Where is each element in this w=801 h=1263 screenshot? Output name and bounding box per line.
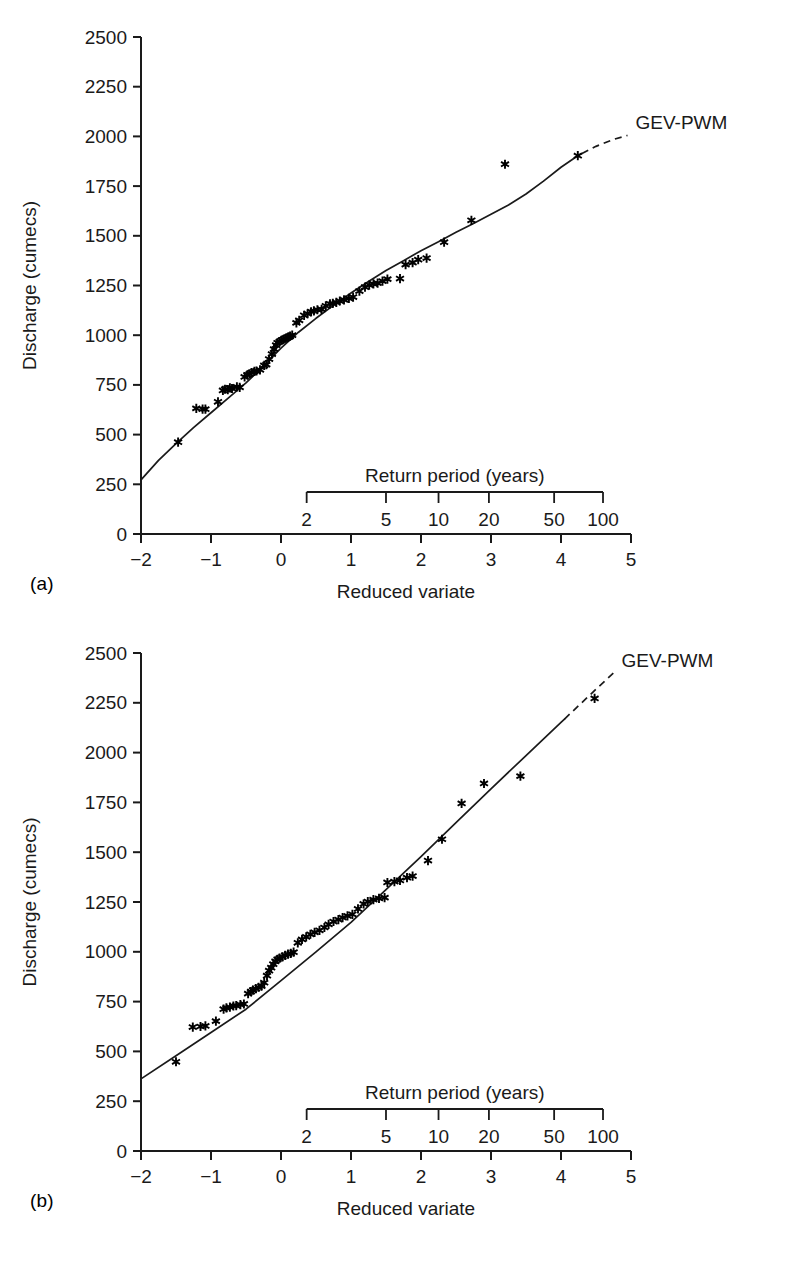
return-period-tick-label: 50 [544,509,565,530]
y-tick-label: 500 [95,1041,127,1062]
y-tick-label: 1000 [85,325,127,346]
data-point-marker [501,160,509,169]
fit-curve-solid [141,154,582,480]
chart-panel-b: 02505007501000125015001750200022502500−2… [0,620,801,1263]
data-point-marker [409,258,417,267]
return-period-tick-label: 2 [301,509,312,530]
x-tick-label: −2 [130,1166,152,1187]
y-tick-label: 0 [116,524,127,545]
return-period-tick-label: 5 [381,509,392,530]
y-tick-label: 250 [95,1091,127,1112]
chart-a-canvas: 02505007501000125015001750200022502500−2… [0,0,801,620]
return-period-tick-label: 5 [381,1126,392,1147]
data-point-marker [480,779,488,788]
return-period-tick-label: 20 [478,509,499,530]
data-point-marker [440,238,448,247]
x-tick-label: 4 [556,549,567,570]
x-tick-label: 0 [276,1166,287,1187]
x-tick-label: 2 [416,1166,427,1187]
x-tick-label: 3 [486,1166,497,1187]
data-point-group [174,151,582,447]
return-period-tick-label: 100 [587,1126,619,1147]
y-tick-label: 1500 [85,842,127,863]
y-tick-label: 1250 [85,275,127,296]
x-tick-label: 5 [626,1166,637,1187]
y-tick-label: 0 [116,1141,127,1162]
data-point-marker [516,772,524,781]
return-period-axis-title: Return period (years) [365,465,545,486]
return-period-tick-label: 10 [428,509,449,530]
return-period-axis-title: Return period (years) [365,1082,545,1103]
y-tick-label: 1750 [85,792,127,813]
return-period-tick-label: 100 [587,509,619,530]
y-tick-label: 1000 [85,941,127,962]
y-axis-title: Discharge (cumecs) [19,818,40,987]
data-point-marker [458,799,466,808]
data-point-marker [414,255,422,264]
panel-tag-b: (b) [30,1190,54,1212]
x-tick-label: −1 [200,1166,222,1187]
data-point-marker [574,151,582,160]
x-tick-label: 2 [416,549,427,570]
data-point-marker [423,253,431,262]
data-point-marker [424,856,432,865]
x-tick-label: 1 [346,549,357,570]
data-point-marker [591,694,599,703]
x-tick-label: 4 [556,1166,567,1187]
y-axis-title: Discharge (cumecs) [19,201,40,370]
x-axis-title: Reduced variate [337,1198,475,1219]
y-tick-label: 250 [95,474,127,495]
x-axis-title: Reduced variate [337,581,475,602]
x-tick-label: −1 [200,549,222,570]
data-point-marker [189,1023,197,1032]
y-tick-label: 1750 [85,176,127,197]
fit-curve-dashed-extension [565,673,614,719]
y-tick-label: 2000 [85,742,127,763]
y-tick-label: 2250 [85,76,127,97]
y-tick-label: 2500 [85,643,127,664]
y-tick-label: 2500 [85,27,127,48]
x-tick-label: −2 [130,549,152,570]
data-point-group [172,694,599,1067]
y-tick-label: 500 [95,424,127,445]
y-tick-label: 2250 [85,692,127,713]
data-point-marker [212,1017,220,1026]
y-tick-label: 1500 [85,225,127,246]
series-label-gev-pwm: GEV-PWM [636,112,728,133]
y-tick-label: 1250 [85,892,127,913]
y-tick-label: 2000 [85,126,127,147]
return-period-tick-label: 2 [301,1126,312,1147]
panel-tag-a: (a) [30,573,54,595]
x-tick-label: 5 [626,549,637,570]
chart-panel-a: 02505007501000125015001750200022502500−2… [0,0,801,620]
return-period-tick-label: 20 [478,1126,499,1147]
x-tick-label: 0 [276,549,287,570]
x-tick-label: 3 [486,549,497,570]
y-tick-label: 750 [95,991,127,1012]
chart-b-canvas: 02505007501000125015001750200022502500−2… [0,620,801,1263]
series-label-gev-pwm: GEV-PWM [622,650,714,671]
y-tick-label: 750 [95,374,127,395]
return-period-tick-label: 10 [428,1126,449,1147]
x-tick-label: 1 [346,1166,357,1187]
return-period-tick-label: 50 [544,1126,565,1147]
data-point-marker [396,274,404,283]
fit-curve-dashed-extension [582,135,628,153]
